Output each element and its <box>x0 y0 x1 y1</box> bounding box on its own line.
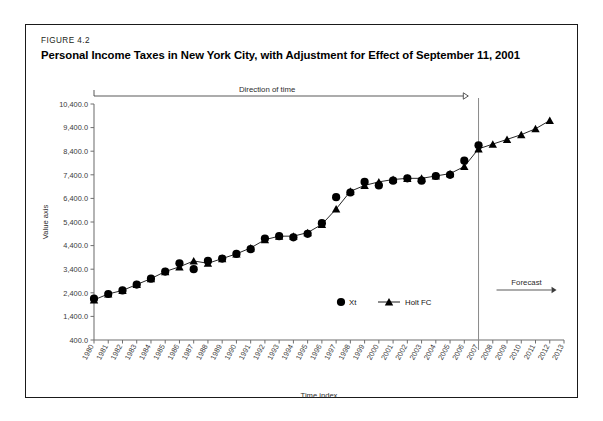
x-tick-label: 1991 <box>237 343 253 362</box>
data-point-marker <box>261 234 269 242</box>
x-tick-label: 2006 <box>450 343 466 362</box>
data-point-marker <box>375 181 383 189</box>
x-axis-ticks: 1980198119821983198419851986198719881989… <box>80 340 566 361</box>
y-tick-label: 6,400.0 <box>63 194 88 203</box>
data-point-marker <box>232 250 240 258</box>
x-tick-label: 1992 <box>251 343 267 362</box>
x-tick-label: 2010 <box>507 343 523 362</box>
chart-legend: XtHolt FC <box>337 298 432 307</box>
direction-of-time-label: Direction of time <box>239 85 295 94</box>
data-point-marker <box>389 177 397 185</box>
x-tick-label: 2005 <box>436 343 452 362</box>
x-tick-label: 1986 <box>166 343 182 362</box>
x-tick-label: 1981 <box>94 343 110 362</box>
data-point-marker <box>161 267 169 275</box>
y-tick-label: 1,400.0 <box>63 312 88 321</box>
chart-canvas: 400.01,400.02,400.03,400.04,400.05,400.0… <box>26 25 579 399</box>
x-tick-label: 2013 <box>550 343 566 362</box>
direction-of-time-annotation: Direction of time <box>94 85 468 100</box>
y-tick-label: 3,400.0 <box>63 265 88 274</box>
series-xt <box>90 141 483 303</box>
data-point-marker <box>474 141 482 149</box>
x-tick-label: 2003 <box>408 343 424 362</box>
y-tick-label: 7,400.0 <box>63 171 88 180</box>
x-tick-label: 1984 <box>137 343 153 362</box>
data-point-marker <box>503 135 511 143</box>
x-tick-label: 1996 <box>308 343 324 362</box>
x-tick-label: 1985 <box>151 343 167 362</box>
data-point-marker <box>147 275 155 283</box>
data-point-marker <box>517 131 525 139</box>
data-point-marker <box>361 178 369 186</box>
data-point-marker <box>346 188 354 196</box>
data-point-marker <box>289 233 297 241</box>
x-tick-label: 1998 <box>336 343 352 362</box>
x-tick-label: 1999 <box>351 343 367 362</box>
data-point-marker <box>403 174 411 182</box>
data-point-marker <box>189 257 197 265</box>
forecast-annotation: Forecast <box>497 278 557 294</box>
data-point-marker <box>460 157 468 165</box>
legend-label-xt: Xt <box>349 298 357 307</box>
data-point-marker <box>304 230 312 238</box>
data-point-marker <box>175 259 183 267</box>
data-point-marker <box>531 125 539 133</box>
y-axis-ticks: 400.01,400.02,400.03,400.04,400.05,400.0… <box>59 100 94 345</box>
x-tick-label: 2009 <box>493 343 509 362</box>
data-point-marker <box>104 290 112 298</box>
y-tick-label: 400.0 <box>70 336 89 345</box>
x-tick-label: 1995 <box>294 343 310 362</box>
series-holt-fc <box>90 117 554 304</box>
data-point-marker <box>337 298 345 306</box>
x-tick-label: 1993 <box>265 343 281 362</box>
y-axis-title: Value axis <box>41 205 50 240</box>
x-tick-label: 1990 <box>223 343 239 362</box>
x-tick-label: 1987 <box>180 343 196 362</box>
figure-frame: FIGURE 4.2 Personal Income Taxes in New … <box>25 24 578 398</box>
data-point-marker <box>432 172 440 180</box>
legend-label-holt-fc: Holt FC <box>405 298 432 307</box>
data-point-marker <box>190 265 198 273</box>
data-point-marker <box>247 245 255 253</box>
y-tick-label: 10,400.0 <box>59 100 88 109</box>
data-point-marker <box>90 295 98 303</box>
data-point-marker <box>118 286 126 294</box>
y-tick-label: 4,400.0 <box>63 241 88 250</box>
data-point-marker <box>275 232 283 240</box>
data-point-marker <box>204 257 212 265</box>
y-tick-label: 9,400.0 <box>63 123 88 132</box>
x-tick-label: 2001 <box>379 343 395 362</box>
x-tick-label: 2004 <box>422 343 438 362</box>
data-point-marker <box>318 219 326 227</box>
y-tick-label: 5,400.0 <box>63 218 88 227</box>
x-tick-label: 1994 <box>279 343 295 362</box>
data-point-marker <box>133 280 141 288</box>
data-point-marker <box>218 254 226 262</box>
forecast-label: Forecast <box>511 278 542 287</box>
data-point-marker <box>489 140 497 148</box>
data-point-marker <box>332 205 340 213</box>
x-tick-label: 2000 <box>365 343 381 362</box>
x-axis-title: Time index <box>301 391 338 399</box>
y-tick-label: 2,400.0 <box>63 289 88 298</box>
data-point-marker <box>417 177 425 185</box>
x-tick-label: 1989 <box>208 343 224 362</box>
x-tick-label: 2008 <box>479 343 495 362</box>
data-point-marker <box>332 193 340 201</box>
x-tick-label: 2012 <box>536 343 552 362</box>
x-tick-label: 1980 <box>80 343 96 362</box>
x-tick-label: 1997 <box>322 343 338 362</box>
data-point-marker <box>546 117 554 125</box>
data-point-marker <box>446 171 454 179</box>
y-tick-label: 8,400.0 <box>63 147 88 156</box>
x-tick-label: 1988 <box>194 343 210 362</box>
x-tick-label: 2007 <box>465 343 481 362</box>
x-tick-label: 2002 <box>393 343 409 362</box>
x-tick-label: 1982 <box>109 343 125 362</box>
x-tick-label: 2011 <box>522 343 537 361</box>
x-tick-label: 1983 <box>123 343 139 362</box>
